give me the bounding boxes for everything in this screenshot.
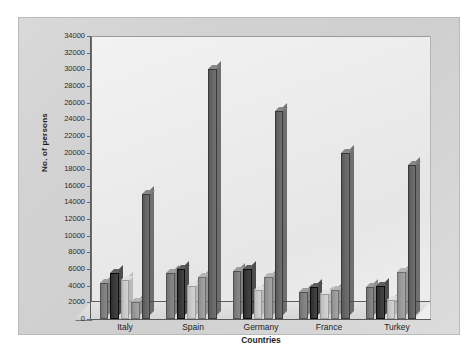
bar (254, 290, 263, 319)
bar-face (299, 292, 308, 319)
bar (264, 277, 273, 319)
chart-screenshot: 3400032000300002800026000240002200020000… (0, 0, 473, 351)
bar (397, 272, 406, 319)
bar (366, 287, 375, 319)
bar (376, 286, 385, 319)
y-tick-label: 12000 (64, 215, 85, 223)
x-axis-title: Countries (91, 335, 431, 345)
bar-side (283, 103, 287, 315)
x-tick-label: Italy (91, 322, 159, 332)
bar (110, 273, 119, 319)
bar (131, 302, 140, 319)
bar (320, 294, 329, 319)
bar-side (217, 61, 221, 315)
y-tick-label: 4000 (68, 282, 85, 290)
x-tick-label: Turkey (363, 322, 431, 332)
bar (275, 111, 284, 319)
bar-face (208, 69, 217, 319)
bar (408, 165, 417, 319)
bar-side (350, 145, 354, 315)
bar-face (187, 286, 196, 319)
bar-face (121, 280, 130, 319)
bar-face (275, 111, 284, 319)
y-tick-label: 18000 (64, 165, 85, 173)
bar (198, 277, 207, 319)
bar (310, 287, 319, 319)
bar-face (243, 269, 252, 319)
x-tick-label: Germany (227, 322, 295, 332)
x-axis-line (91, 319, 431, 320)
bar (233, 271, 242, 319)
bar (121, 280, 130, 319)
y-tick-label: 28000 (64, 82, 85, 90)
y-tick-label: 2000 (68, 298, 85, 306)
bar (100, 283, 109, 319)
bar-face (100, 283, 109, 319)
bar-face (233, 271, 242, 319)
y-tick-label: 20000 (64, 149, 85, 157)
y-tick-label: 6000 (68, 265, 85, 273)
bar-face (376, 286, 385, 319)
y-tick-label: 14000 (64, 198, 85, 206)
bar-face (198, 277, 207, 319)
bar-face (110, 273, 119, 319)
y-tick-label: 0 (81, 315, 85, 323)
y-axis-tick-labels: 3400032000300002800026000240002200020000… (19, 18, 89, 338)
bar (331, 290, 340, 319)
bar-side (416, 157, 420, 315)
y-tick-label: 34000 (64, 32, 85, 40)
bar-face (166, 273, 175, 319)
y-tick-label: 30000 (64, 65, 85, 73)
bar (166, 273, 175, 319)
bar (187, 286, 196, 319)
y-tick-label: 8000 (68, 248, 85, 256)
bar (208, 69, 217, 319)
y-tick-mark (87, 319, 91, 320)
bar-face (177, 269, 186, 319)
y-tick-label: 24000 (64, 115, 85, 123)
bar (341, 153, 350, 319)
bar-face (320, 294, 329, 319)
bar-face (387, 300, 396, 319)
bar-side (150, 186, 154, 315)
y-tick-label: 26000 (64, 99, 85, 107)
bar-face (366, 287, 375, 319)
y-tick-label: 16000 (64, 182, 85, 190)
bar-face (254, 290, 263, 319)
bar-face (142, 194, 151, 319)
y-tick-label: 10000 (64, 232, 85, 240)
bar-face (310, 287, 319, 319)
x-tick-label: Spain (159, 322, 227, 332)
x-tick-label: France (295, 322, 363, 332)
bar-face (131, 302, 140, 319)
y-axis-title: No. of persons (40, 78, 49, 208)
y-tick-label: 32000 (64, 49, 85, 57)
bar-face (397, 272, 406, 319)
bar-face (341, 153, 350, 319)
bar (243, 269, 252, 319)
bars-container (91, 36, 431, 319)
bar-face (331, 290, 340, 319)
bar (142, 194, 151, 319)
chart-card: 3400032000300002800026000240002200020000… (18, 17, 460, 335)
bar-face (408, 165, 417, 319)
y-tick-label: 22000 (64, 132, 85, 140)
bar (177, 269, 186, 319)
bar-face (264, 277, 273, 319)
bar (299, 292, 308, 319)
bar (387, 300, 396, 319)
